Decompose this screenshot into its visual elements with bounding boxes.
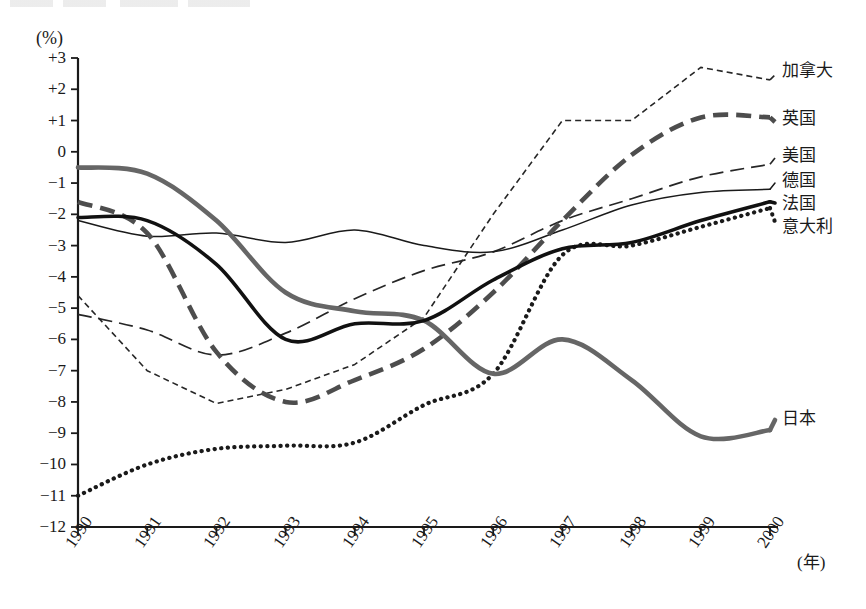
legend-leader-canada: [770, 75, 775, 80]
legend-leader-france: [770, 202, 775, 203]
legend-leader-uk: [770, 117, 775, 122]
y-tick-label: −10: [20, 455, 66, 472]
series-label-uk: 英国: [782, 110, 816, 128]
y-tick-label: +1: [20, 112, 66, 129]
series-label-italy: 意大利: [782, 218, 833, 236]
series-label-usa: 美国: [782, 147, 816, 165]
y-tick-label: +3: [20, 49, 66, 66]
series-label-germany: 德国: [782, 172, 816, 190]
series-label-france: 法国: [782, 195, 816, 213]
series-label-japan: 日本: [782, 410, 816, 428]
legend-leader-germany: [770, 183, 775, 189]
y-tick-label: +2: [20, 80, 66, 97]
y-tick-label: −11: [20, 487, 66, 504]
y-tick-label: −9: [20, 424, 66, 441]
y-tick-label: −12: [20, 518, 66, 535]
y-tick-label: −6: [20, 330, 66, 347]
y-tick-label: −3: [20, 237, 66, 254]
series-line-japan: [78, 167, 770, 439]
y-tick-label: −4: [20, 268, 66, 285]
legend-leader-usa: [770, 158, 775, 164]
y-tick-label: −8: [20, 393, 66, 410]
line-chart-figure: (%) (年) +3+2+10−1−2−3−4−5−6−7−8−9−10−11−…: [0, 0, 866, 609]
series-line-france: [78, 202, 770, 342]
series-line-uk: [78, 115, 770, 403]
series-line-italy: [78, 208, 770, 496]
y-tick-label: 0: [20, 143, 66, 160]
y-tick-label: −7: [20, 362, 66, 379]
y-tick-label: −1: [20, 174, 66, 191]
y-tick-label: −5: [20, 299, 66, 316]
legend-leader-japan: [770, 420, 775, 430]
series-line-germany: [78, 189, 770, 252]
series-label-canada: 加拿大: [782, 62, 833, 80]
y-tick-label: −2: [20, 205, 66, 222]
legend-leader-italy: [770, 208, 775, 222]
